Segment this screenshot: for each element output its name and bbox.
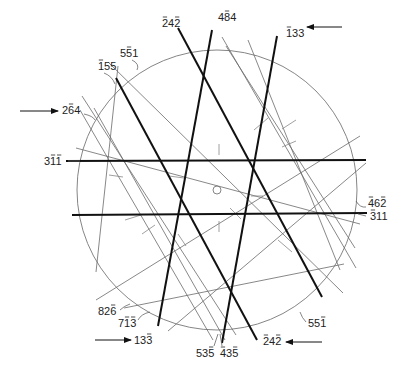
miller-index-text: 713 <box>118 317 136 329</box>
leader-line <box>214 334 218 346</box>
tick-mark <box>278 240 292 252</box>
miller-index-text: 826 <box>98 305 116 317</box>
label-242: 242 <box>162 17 180 29</box>
circle-outline <box>77 50 357 330</box>
leader-line <box>300 312 306 322</box>
label-311: 311 <box>370 210 388 222</box>
center-circle-icon <box>213 186 221 194</box>
miller-index-text: 551 <box>120 47 138 59</box>
leader-line <box>356 201 366 207</box>
miller-index-text: 551 <box>308 317 326 329</box>
tick-mark <box>178 234 186 246</box>
arrows <box>20 27 342 342</box>
label-713: 713 <box>118 317 136 329</box>
tick-mark <box>125 215 141 220</box>
miller-index-text: 133 <box>134 334 152 346</box>
label-462: 462 <box>368 197 386 209</box>
miller-index-text: 462 <box>368 197 386 209</box>
label-551: 551 <box>308 317 326 329</box>
thin-line <box>96 66 118 272</box>
leader-line <box>132 60 138 70</box>
label-133: 133 <box>286 27 304 39</box>
kikuchi-diagram: 2424841335511552643114623118267135511332… <box>0 0 407 373</box>
leader-line <box>358 214 366 216</box>
label-133: 133 <box>134 334 152 346</box>
miller-index-text: 311 <box>370 210 388 222</box>
tick-mark <box>109 175 123 177</box>
thick-line-311-bar <box>66 160 366 161</box>
label-435: 435 <box>220 347 238 359</box>
miller-index-text: 242 <box>263 335 281 347</box>
thick-line-311 <box>72 213 367 215</box>
label-264: 264 <box>62 104 80 116</box>
projection-circle <box>77 50 357 330</box>
label-155: 155 <box>98 60 116 72</box>
miller-index-text: 435 <box>220 347 238 359</box>
leader-line <box>138 312 150 320</box>
miller-index-text: 242 <box>162 17 180 29</box>
thin-line <box>168 163 366 331</box>
miller-index-text: 535 <box>196 347 214 359</box>
tick-mark <box>142 225 155 234</box>
thin-line <box>248 40 340 270</box>
center-marker <box>213 186 221 194</box>
miller-index-text: 155 <box>98 60 116 72</box>
thick-line-484 <box>158 30 212 326</box>
label-242: 242 <box>263 335 281 347</box>
label-535: 535 <box>196 347 214 359</box>
label-551: 551 <box>120 47 138 59</box>
label-311: 311 <box>44 155 62 167</box>
label-826: 826 <box>98 305 116 317</box>
miller-index-text: 484 <box>218 11 236 23</box>
thin-line <box>108 62 343 293</box>
miller-index-text: 133 <box>286 27 304 39</box>
miller-index-text: 311 <box>44 155 62 167</box>
miller-index-text: 264 <box>62 104 80 116</box>
leader-line <box>104 73 115 84</box>
label-484: 484 <box>218 11 236 23</box>
tick-mark <box>282 120 296 129</box>
